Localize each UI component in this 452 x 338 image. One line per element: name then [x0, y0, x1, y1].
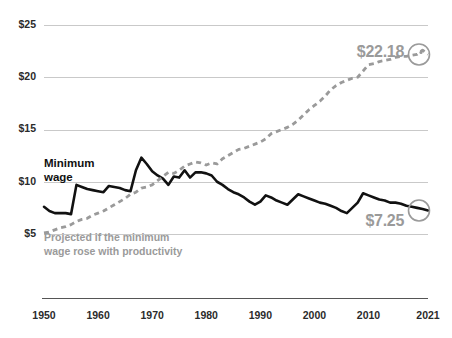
projected-label-line1: Projected if the minimum — [44, 231, 169, 243]
minimum-wage-endpoint-value: $7.25 — [365, 212, 404, 229]
y-tick-label-25: $25 — [18, 18, 36, 30]
minimum-wage-label-line2: wage — [43, 171, 73, 183]
endpoint-markers — [409, 44, 430, 221]
y-axis-tick-labels: $25$20$15$10$5 — [18, 18, 36, 239]
x-tick-label-1950: 1950 — [32, 309, 56, 321]
minimum-wage-label-line1: Minimum — [44, 157, 94, 169]
x-axis-tick-labels: 19501960197019801990200020102021 — [32, 309, 440, 321]
x-tick-label-1970: 1970 — [140, 309, 164, 321]
y-tick-label-20: $20 — [18, 70, 36, 82]
minimum-wage-line-chart: $25$20$15$10$5 1950196019701980199020002… — [0, 0, 452, 338]
projected-endpoint-value: $22.18 — [357, 43, 405, 60]
projected-label-line2: wage rose with productivity — [43, 245, 182, 257]
y-tick-label-15: $15 — [18, 122, 36, 134]
x-tick-label-2021: 2021 — [416, 309, 440, 321]
projected-endpoint-marker-dot — [419, 51, 422, 54]
x-tick-label-2000: 2000 — [303, 309, 327, 321]
x-tick-label-1960: 1960 — [86, 309, 110, 321]
chart-container: $25$20$15$10$5 1950196019701980199020002… — [0, 0, 452, 338]
projected-endpoint-marker — [409, 44, 430, 65]
y-tick-label-5: $5 — [24, 227, 36, 239]
y-tick-label-10: $10 — [18, 175, 36, 187]
x-tick-label-1980: 1980 — [195, 309, 219, 321]
series-line-minimum-wage — [44, 158, 428, 214]
x-tick-label-1990: 1990 — [249, 309, 273, 321]
x-tick-label-2010: 2010 — [357, 309, 381, 321]
